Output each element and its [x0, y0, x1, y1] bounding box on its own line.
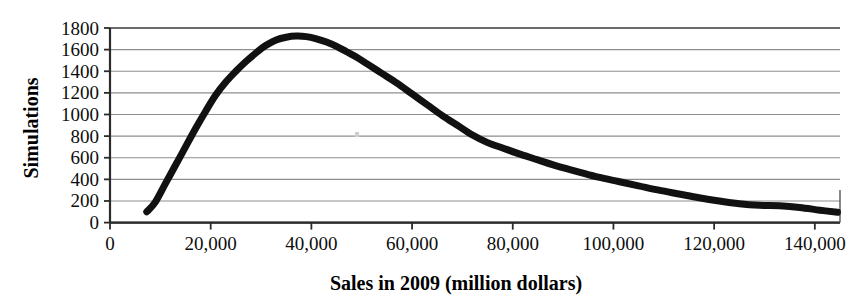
y-tick-label: 200 [71, 190, 100, 211]
scan-speck-artifact [355, 132, 359, 137]
y-tick-label: 800 [71, 126, 100, 147]
y-tick-label: 0 [90, 212, 100, 233]
scan-speck [355, 132, 359, 137]
chart-svg: 020040060080010001200140016001800 020,00… [0, 0, 863, 307]
y-tick-label: 600 [71, 147, 100, 168]
x-tick-label: 60,000 [386, 233, 438, 254]
y-tick-labels: 020040060080010001200140016001800 [61, 18, 99, 234]
x-axis-title: Sales in 2009 (million dollars) [330, 272, 582, 295]
y-tick-label: 400 [71, 169, 100, 190]
x-tick-labels: 020,00040,00060,00080,000100,000120,0001… [105, 233, 845, 254]
y-tick-label: 1600 [61, 39, 99, 60]
y-tick-label: 1400 [61, 61, 99, 82]
data-series-group [147, 36, 838, 212]
y-tick-label: 1800 [61, 18, 99, 39]
gridlines [110, 28, 840, 223]
y-tick-label: 1200 [61, 82, 99, 103]
x-tick-label: 20,000 [185, 233, 237, 254]
x-tick-label: 120,000 [683, 233, 745, 254]
x-tick-label: 80,000 [487, 233, 539, 254]
series-line-simulations [147, 36, 838, 212]
x-tick-label: 140,000 [784, 233, 846, 254]
y-axis-title: Simulations [20, 77, 42, 178]
x-tick-label: 0 [105, 233, 115, 254]
x-tick-label: 40,000 [285, 233, 337, 254]
chart-figure: 020040060080010001200140016001800 020,00… [0, 0, 863, 307]
x-tick-label: 100,000 [583, 233, 645, 254]
y-tick-label: 1000 [61, 104, 99, 125]
